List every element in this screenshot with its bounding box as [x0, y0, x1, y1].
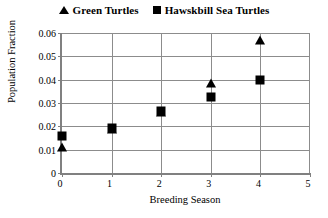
y-tick-mark — [58, 33, 62, 34]
x-tick-label: 3 — [206, 178, 211, 189]
legend-entry-green-turtles: Green Turtles — [59, 4, 139, 16]
x-tick-label: 4 — [256, 178, 261, 189]
y-tick-mark — [58, 103, 62, 104]
y-tick-mark — [58, 56, 62, 57]
y-gridline — [62, 150, 310, 151]
y-tick-mark — [58, 80, 62, 81]
x-tick-mark — [161, 173, 162, 177]
data-point-square — [206, 93, 215, 102]
x-axis-tick-labels: 012345 — [60, 178, 310, 192]
x-tick-label: 1 — [107, 178, 112, 189]
data-point-square — [256, 75, 265, 84]
plot-area — [60, 33, 310, 175]
legend-label-green-turtles: Green Turtles — [73, 4, 139, 16]
x-axis-title: Breeding Season — [60, 194, 310, 205]
y-tick-label: 0.04 — [39, 74, 57, 85]
y-tick-label: 0 — [51, 168, 56, 179]
x-tick-mark — [62, 173, 63, 177]
chart-legend: Green Turtles Hawskbill Sea Turtles — [0, 2, 328, 18]
data-point-square — [58, 131, 67, 140]
x-tick-mark — [112, 173, 113, 177]
y-gridline — [62, 126, 310, 127]
x-tick-mark — [310, 173, 311, 177]
square-marker-icon — [153, 6, 161, 14]
x-gridline — [260, 33, 261, 173]
data-point-square — [107, 123, 116, 132]
x-tick-mark — [211, 173, 212, 177]
y-tick-label: 0.05 — [39, 51, 57, 62]
y-tick-label: 0.03 — [39, 98, 57, 109]
y-gridline — [62, 56, 310, 57]
x-gridline — [211, 33, 212, 173]
x-tick-label: 2 — [157, 178, 162, 189]
x-gridline — [112, 33, 113, 173]
legend-label-hawksbill-sea-turtles: Hawskbill Sea Turtles — [165, 4, 270, 16]
data-point-triangle — [57, 143, 67, 152]
x-tick-mark — [260, 173, 261, 177]
triangle-marker-icon — [59, 6, 69, 14]
data-point-square — [157, 107, 166, 116]
x-tick-label: 5 — [306, 178, 311, 189]
legend-entry-hawksbill-sea-turtles: Hawskbill Sea Turtles — [153, 4, 270, 16]
y-gridline — [62, 33, 310, 34]
y-tick-label: 0.06 — [39, 28, 57, 39]
y-gridline — [62, 103, 310, 104]
data-point-triangle — [206, 79, 216, 88]
y-tick-mark — [58, 126, 62, 127]
chart-screenshot: Green Turtles Hawskbill Sea Turtles 00.0… — [0, 0, 328, 218]
x-gridline — [161, 33, 162, 173]
y-gridline — [62, 80, 310, 81]
y-tick-label: 0.01 — [39, 144, 57, 155]
y-axis-title: Population Fraction — [6, 2, 17, 122]
y-tick-label: 0.02 — [39, 121, 57, 132]
x-tick-label: 0 — [58, 178, 63, 189]
data-point-triangle — [255, 36, 265, 45]
